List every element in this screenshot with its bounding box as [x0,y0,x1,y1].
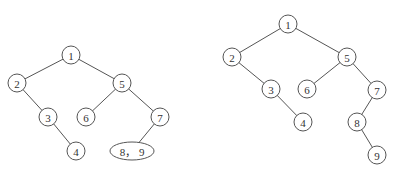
tree-node: 8 [348,113,366,131]
tree-node: 3 [262,80,280,98]
tree-node: 5 [338,48,356,66]
node-label: 1 [285,19,291,31]
tree-node: 2 [223,48,241,66]
node-label: 8， 9 [120,146,145,158]
tree-node: 6 [77,108,95,126]
node-label: 2 [14,78,20,90]
tree-node: 3 [39,108,57,126]
node-label: 6 [83,112,89,124]
tree-node: 7 [368,81,386,99]
tree-node: 8， 9 [110,142,154,160]
node-label: 8 [354,117,360,129]
node-label: 2 [229,52,235,64]
tree-node: 7 [151,108,169,126]
tree-edge [288,24,347,57]
node-label: 3 [268,84,274,96]
tree-node: 1 [62,46,80,64]
tree-node: 4 [67,142,85,160]
tree-node: 4 [294,113,312,131]
nodes-layer: 12536748， 9125367489 [8,15,386,164]
node-label: 5 [119,78,125,90]
tree-node: 2 [8,74,26,92]
tree-edge [232,24,288,57]
node-label: 1 [68,50,74,62]
node-label: 4 [300,117,306,129]
node-label: 7 [374,85,380,97]
tree-diagram-canvas: 12536748， 9125367489 [0,0,394,173]
node-label: 7 [157,112,163,124]
node-label: 4 [73,146,79,158]
node-label: 3 [45,112,51,124]
node-label: 9 [374,150,380,162]
tree-node: 6 [298,80,316,98]
tree-node: 9 [368,146,386,164]
node-label: 6 [304,84,310,96]
node-label: 5 [344,52,350,64]
tree-node: 1 [279,15,297,33]
tree-node: 5 [113,74,131,92]
edges-layer [17,24,377,155]
